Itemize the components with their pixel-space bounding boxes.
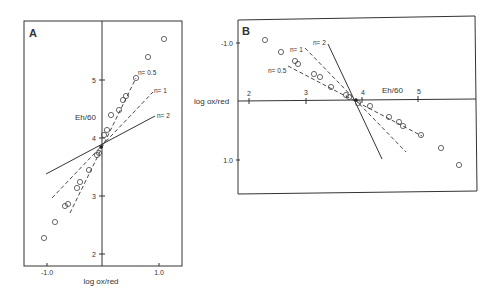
line-label-n-2: n= 2 xyxy=(313,39,326,46)
intersection-point xyxy=(99,145,103,149)
y-tick-label: 2 xyxy=(92,251,96,258)
panel-b: B 2 3 4 5 -1.0 1.0 log ox/red Eh/60 n= 0… xyxy=(194,16,477,194)
line-label-n-0.5: n= 0.5 xyxy=(268,67,287,74)
figure: A 5 4 3 2 -1.0 1.0 log ox/red Eh/60 n= 0… xyxy=(0,0,494,303)
line-label-n-1: n= 1 xyxy=(290,46,303,53)
panel-a-x-label: log ox/red xyxy=(83,277,118,286)
y-tick-label: 5 xyxy=(92,77,96,84)
intersection-point xyxy=(354,98,358,102)
panel-b-title: B xyxy=(242,25,250,37)
line-n-2 xyxy=(46,116,155,174)
panel-a-y-label: Eh/60 xyxy=(75,113,96,122)
x-tick-label: 5 xyxy=(417,88,421,95)
panel-a-title: A xyxy=(29,27,37,39)
y-tick-label: 3 xyxy=(92,193,96,200)
y-tick-label: 1.0 xyxy=(223,157,233,164)
panel-a: A 5 4 3 2 -1.0 1.0 log ox/red Eh/60 n= 0… xyxy=(24,21,182,286)
line-n-2 xyxy=(328,44,382,159)
x-tick-label: 3 xyxy=(304,89,308,96)
line-label-n-1: n= 1 xyxy=(154,87,167,94)
x-tick-label: 2 xyxy=(247,90,251,97)
panel-b-frame xyxy=(238,16,477,194)
panel-b-y-label: log ox/red xyxy=(194,97,229,106)
panel-a-y-ticks: 5 4 3 2 xyxy=(92,77,105,258)
y-tick-label: -1.0 xyxy=(221,40,233,47)
line-label-n-2: n= 2 xyxy=(157,112,170,119)
x-tick-label: 4 xyxy=(361,89,365,96)
panel-b-x-label: Eh/60 xyxy=(382,86,403,95)
x-tick-label: -1.0 xyxy=(41,269,53,276)
y-tick-label: 4 xyxy=(92,135,96,142)
line-label-n-0.5: n= 0.5 xyxy=(138,69,157,76)
x-tick-label: 1.0 xyxy=(154,269,164,276)
